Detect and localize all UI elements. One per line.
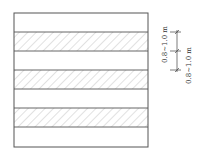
hatched-band-1 (14, 32, 148, 51)
dimension-label-2: 0.8~1.0 m (185, 47, 193, 84)
hatched-band-3 (14, 108, 148, 127)
hatched-band-2 (14, 70, 148, 89)
striped-diagram (0, 0, 202, 158)
dimension-line (170, 30, 181, 72)
dimension-label-1: 0.8~1.0 m (161, 26, 169, 63)
